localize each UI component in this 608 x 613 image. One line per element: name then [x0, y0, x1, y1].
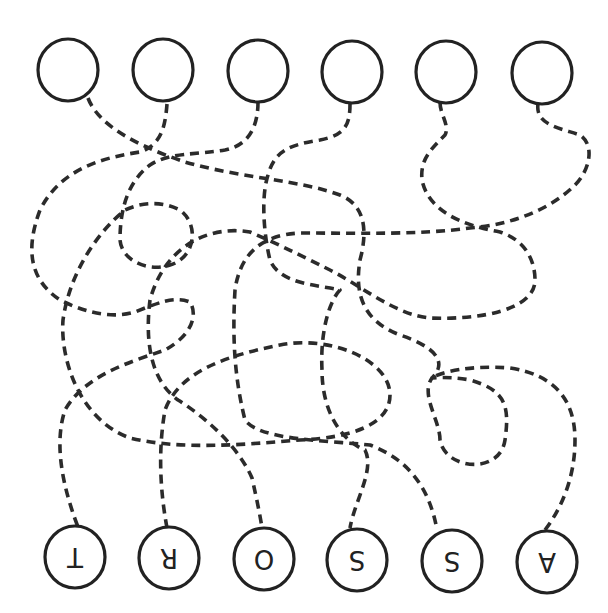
top-answer-circles [38, 39, 572, 104]
top-5-circle[interactable] [416, 41, 476, 103]
circle-letter: A [538, 547, 556, 577]
tangled-lines-puzzle: TROSSA [0, 0, 608, 613]
circle-letter: S [444, 546, 461, 576]
bottom-1-circle[interactable]: T [45, 526, 105, 588]
dashed-line-path-b [32, 104, 193, 527]
top-6-circle[interactable] [512, 42, 572, 104]
dashed-paths [32, 98, 589, 530]
bottom-2-circle[interactable]: R [139, 527, 199, 589]
top-4-circle[interactable] [322, 41, 382, 103]
circle-letter: R [160, 543, 178, 573]
bottom-6-circle[interactable]: A [517, 531, 577, 593]
circle-outline [322, 41, 382, 103]
top-2-circle[interactable] [133, 39, 193, 101]
circle-letter: T [67, 542, 84, 572]
circle-letter: S [349, 545, 366, 575]
circle-outline [133, 39, 193, 101]
circle-outline [416, 41, 476, 103]
bottom-4-circle[interactable]: S [327, 529, 387, 591]
bottom-5-circle[interactable]: S [422, 530, 482, 592]
dashed-line-path-f [234, 104, 589, 530]
dashed-line-path-g [432, 367, 575, 530]
circle-letter: O [254, 544, 274, 574]
circle-outline [512, 42, 572, 104]
top-1-circle[interactable] [38, 39, 98, 101]
circle-outline [38, 39, 98, 101]
top-3-circle[interactable] [228, 40, 288, 102]
circle-outline [228, 40, 288, 102]
bottom-3-circle[interactable]: O [234, 528, 294, 590]
bottom-letter-circles: TROSSA [45, 526, 577, 593]
dashed-line-path-d [264, 104, 368, 528]
